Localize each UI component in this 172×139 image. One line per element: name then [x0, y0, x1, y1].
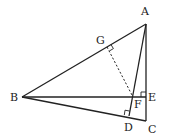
- label-e: E: [148, 91, 156, 104]
- label-b: B: [10, 91, 18, 104]
- right-angle-marker-e: [141, 92, 146, 97]
- segment-bc: [22, 97, 146, 121]
- label-g: G: [96, 34, 105, 47]
- label-c: C: [148, 123, 156, 136]
- triangle-sides: [22, 24, 146, 121]
- geometry-diagram: A B C D E F G: [0, 0, 172, 139]
- point-labels: A B C D E F G: [10, 5, 156, 136]
- label-d: D: [124, 121, 133, 134]
- label-f: F: [134, 98, 142, 111]
- segment-gf-dashed: [107, 47, 133, 97]
- label-a: A: [140, 5, 150, 18]
